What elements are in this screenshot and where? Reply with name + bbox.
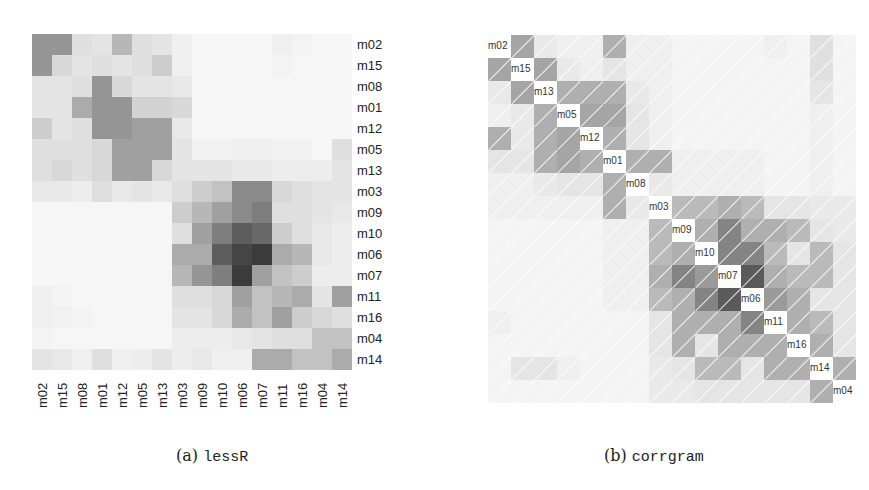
slash-mark — [603, 173, 626, 196]
slash-mark — [649, 357, 672, 380]
diagonal-label-cell: m04 — [833, 380, 856, 403]
slash-mark — [488, 173, 511, 196]
heatmap-cell — [272, 55, 292, 76]
heatmap-cell — [332, 286, 352, 307]
heatmap-cell — [92, 97, 112, 118]
slash-mark — [580, 242, 603, 265]
heatmap-cell — [172, 55, 192, 76]
correlation-cell — [672, 81, 695, 104]
heatmap-cell — [92, 76, 112, 97]
slash-mark — [718, 357, 741, 380]
slash-mark — [580, 219, 603, 242]
slash-mark — [695, 81, 718, 104]
correlation-cell — [810, 58, 833, 81]
correlation-cell — [626, 219, 649, 242]
heatmap-cell — [232, 118, 252, 139]
slash-mark — [534, 150, 557, 173]
correlation-cell — [787, 380, 810, 403]
heatmap-cell — [152, 118, 172, 139]
correlation-cell — [764, 265, 787, 288]
slash-mark — [741, 58, 764, 81]
correlation-cell — [810, 150, 833, 173]
heatmap-cell — [112, 265, 132, 286]
heatmap-cell — [192, 139, 212, 160]
slash-mark — [580, 150, 603, 173]
slash-mark — [787, 311, 810, 334]
heatmap-cell — [132, 34, 152, 55]
correlation-cell — [787, 81, 810, 104]
slash-mark — [810, 265, 833, 288]
heatmap-cell — [72, 76, 92, 97]
heatmap-cell — [112, 139, 132, 160]
heatmap-cell — [32, 139, 52, 160]
heatmap-cell — [312, 181, 332, 202]
heatmap-cell — [172, 34, 192, 55]
caption-b: (b) corrgram — [604, 446, 704, 466]
heatmap-cell — [112, 55, 132, 76]
heatmap-cell — [312, 55, 332, 76]
correlation-cell — [649, 288, 672, 311]
slash-mark — [764, 196, 787, 219]
slash-mark — [718, 104, 741, 127]
heatmap-cell — [232, 202, 252, 223]
slash-mark — [626, 242, 649, 265]
slash-mark — [626, 81, 649, 104]
heatmap-cell — [112, 181, 132, 202]
heatmap-cell — [232, 139, 252, 160]
correlation-cell — [649, 150, 672, 173]
slash-mark — [741, 173, 764, 196]
correlation-cell — [764, 150, 787, 173]
heatmap-cell — [232, 265, 252, 286]
heatmap-cell — [172, 202, 192, 223]
heatmap-cell — [232, 307, 252, 328]
row-label: m15 — [357, 55, 417, 76]
correlation-cell — [511, 150, 534, 173]
heatmap-cell — [292, 202, 312, 223]
heatmap-cell — [192, 328, 212, 349]
heatmap-cell — [72, 265, 92, 286]
heatmap-cell — [152, 202, 172, 223]
heatmap-cell — [192, 349, 212, 370]
slash-mark — [764, 265, 787, 288]
slash-mark — [626, 150, 649, 173]
slash-mark — [557, 334, 580, 357]
heatmap-cell — [32, 76, 52, 97]
correlation-cell — [626, 288, 649, 311]
diagonal-label-cell: m02 — [488, 35, 511, 58]
heatmap-cell — [252, 265, 272, 286]
slash-mark — [626, 265, 649, 288]
column-label: m09 — [192, 374, 212, 422]
heatmap-cell — [132, 55, 152, 76]
correlation-cell — [764, 173, 787, 196]
correlation-cell — [649, 265, 672, 288]
correlation-cell — [534, 35, 557, 58]
slash-mark — [534, 311, 557, 334]
correlation-cell — [557, 81, 580, 104]
correlation-cell — [810, 104, 833, 127]
heatmap-cell — [332, 118, 352, 139]
slash-mark — [741, 104, 764, 127]
correlation-cell — [511, 81, 534, 104]
heatmap-cell — [212, 223, 232, 244]
slash-mark — [557, 380, 580, 403]
heatmap-cell — [32, 97, 52, 118]
heatmap-cell — [32, 55, 52, 76]
correlation-cell — [488, 127, 511, 150]
slash-mark — [741, 196, 764, 219]
correlation-cell — [833, 104, 856, 127]
slash-mark — [511, 242, 534, 265]
heatmap-cell — [252, 181, 272, 202]
slash-mark — [764, 127, 787, 150]
correlation-cell — [672, 288, 695, 311]
heatmap-cell — [232, 34, 252, 55]
slash-mark — [787, 173, 810, 196]
correlation-cell — [649, 242, 672, 265]
correlation-cell — [718, 242, 741, 265]
slash-mark — [649, 58, 672, 81]
correlation-cell — [672, 242, 695, 265]
correlation-cell — [488, 196, 511, 219]
heatmap-cell — [312, 349, 332, 370]
correlation-cell — [557, 219, 580, 242]
correlation-cell — [787, 127, 810, 150]
heatmap-cell — [292, 265, 312, 286]
